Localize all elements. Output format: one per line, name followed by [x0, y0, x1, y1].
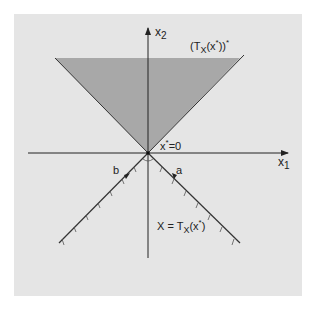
- feasible-set-label: X = TX(x*): [157, 218, 205, 235]
- ray-b-hatches: [62, 167, 136, 245]
- x1-axis-label: x1: [278, 155, 290, 171]
- polar-cone-label: (TX(x*))*: [190, 38, 229, 55]
- origin-label: x*=0: [160, 138, 181, 152]
- vector-a-label: a: [176, 164, 183, 176]
- ray-b: [59, 153, 148, 243]
- cone-diagram: x2 x1 (TX(x*))* x*=0 b a X = TX(x*): [0, 0, 316, 310]
- x2-axis-label: x2: [155, 25, 167, 41]
- ray-a-hatches: [160, 167, 234, 245]
- vector-b-label: b: [113, 164, 119, 176]
- origin-point: [146, 151, 150, 155]
